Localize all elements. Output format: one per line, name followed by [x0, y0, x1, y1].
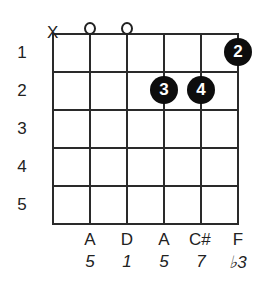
fret-line-5 — [52, 223, 239, 225]
interval-label-string-2: 5 — [78, 252, 102, 272]
interval-label-string-5: 7 — [189, 252, 213, 272]
open-string-icon — [121, 22, 133, 35]
string-3 — [126, 33, 128, 225]
fret-line-1 — [52, 71, 239, 73]
string-5 — [200, 33, 202, 225]
muted-string-icon: X — [47, 24, 58, 41]
note-label-string-3: D — [117, 230, 137, 250]
fret-number-5: 5 — [14, 195, 30, 215]
fret-number-4: 4 — [14, 157, 30, 177]
open-string-icon — [84, 22, 96, 35]
fret-number-3: 3 — [14, 119, 30, 139]
string-4 — [163, 33, 165, 225]
note-label-string-2: A — [80, 230, 100, 250]
fret-number-2: 2 — [14, 81, 30, 101]
interval-label-string-3: 1 — [115, 252, 139, 272]
finger-number: 3 — [159, 80, 168, 100]
fret-line-2 — [52, 109, 239, 111]
note-label-string-6: F — [228, 230, 248, 250]
nut-line — [52, 33, 239, 35]
fret-line-3 — [52, 147, 239, 149]
interval-label-string-6: ♭3 — [226, 252, 250, 273]
finger-number: 4 — [196, 80, 205, 100]
note-label-string-4: A — [154, 230, 174, 250]
note-label-string-5: C# — [189, 230, 209, 250]
string-2 — [89, 33, 91, 225]
string-1 — [52, 33, 54, 225]
finger-dot-4: 4 — [187, 76, 215, 104]
finger-dot-2: 2 — [224, 38, 252, 66]
fret-line-4 — [52, 185, 239, 187]
finger-dot-3: 3 — [150, 76, 178, 104]
fret-number-1: 1 — [14, 43, 30, 63]
interval-label-string-4: 5 — [152, 252, 176, 272]
finger-number: 2 — [233, 42, 242, 62]
